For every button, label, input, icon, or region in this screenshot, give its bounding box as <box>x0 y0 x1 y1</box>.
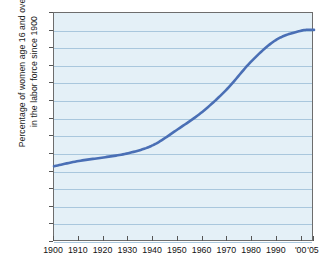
x-axis-tick-label: '05 <box>307 245 318 255</box>
x-axis-tick-label: 1980 <box>241 245 261 255</box>
x-axis-tick-label: '00 <box>295 245 306 255</box>
chart-figure: Percentage of women age 16 and over in t… <box>0 0 330 274</box>
y-axis-title-line-1: Percentage of women age 16 and over <box>17 0 27 147</box>
x-axis-tick-label: 1920 <box>93 245 113 255</box>
x-axis-tick-label: 1950 <box>167 245 187 255</box>
x-axis-tick-label: 1960 <box>192 245 212 255</box>
x-axis-tick-label: 1940 <box>142 245 162 255</box>
x-axis-tick-label: 1970 <box>217 245 237 255</box>
y-axis-title-line-2: in the labor force since 1900 <box>28 0 40 162</box>
series-line <box>54 30 314 167</box>
x-axis-tick-label: 1900 <box>43 245 63 255</box>
y-axis-tick-mark <box>49 241 53 242</box>
x-axis-tick-label: 1930 <box>117 245 137 255</box>
gridline <box>54 242 312 243</box>
plot-area <box>53 12 313 241</box>
line-series-women-labor-force <box>54 13 314 242</box>
x-axis-tick-label: 1910 <box>68 245 88 255</box>
x-axis-tick-label: 1990 <box>266 245 286 255</box>
y-axis-title: Percentage of women age 16 and over in t… <box>17 0 40 162</box>
